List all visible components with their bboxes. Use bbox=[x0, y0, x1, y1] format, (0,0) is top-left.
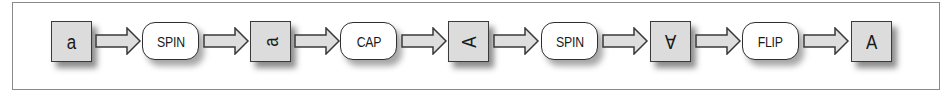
flow-arrow bbox=[802, 27, 850, 55]
state-box-a: a bbox=[51, 21, 92, 62]
state-box-A: A bbox=[851, 21, 892, 62]
operation-label: FLIP bbox=[758, 33, 783, 50]
operation-flip: FLIP bbox=[742, 22, 799, 60]
state-label: A bbox=[665, 32, 676, 52]
state-label: A bbox=[459, 36, 479, 47]
operation-cap: CAP bbox=[340, 22, 397, 60]
state-label: a bbox=[261, 37, 281, 46]
flow-arrow bbox=[293, 27, 341, 55]
flow-arrow bbox=[400, 27, 448, 55]
state-box-A-inverted: A bbox=[650, 21, 691, 62]
flow-arrow bbox=[94, 27, 142, 55]
flow-arrow bbox=[601, 27, 649, 55]
flow-arrow bbox=[492, 27, 540, 55]
flow-arrow bbox=[202, 27, 250, 55]
operation-spin: SPIN bbox=[142, 22, 199, 60]
flow-arrow bbox=[694, 27, 742, 55]
operation-label: SPIN bbox=[556, 33, 584, 50]
operation-label: CAP bbox=[356, 33, 381, 50]
state-label: A bbox=[866, 32, 877, 52]
state-label: a bbox=[67, 32, 76, 52]
operation-label: SPIN bbox=[157, 33, 185, 50]
state-box-a-rotated: a bbox=[250, 21, 291, 62]
state-box-A-rotated: A bbox=[448, 21, 489, 62]
operation-spin: SPIN bbox=[541, 22, 598, 60]
